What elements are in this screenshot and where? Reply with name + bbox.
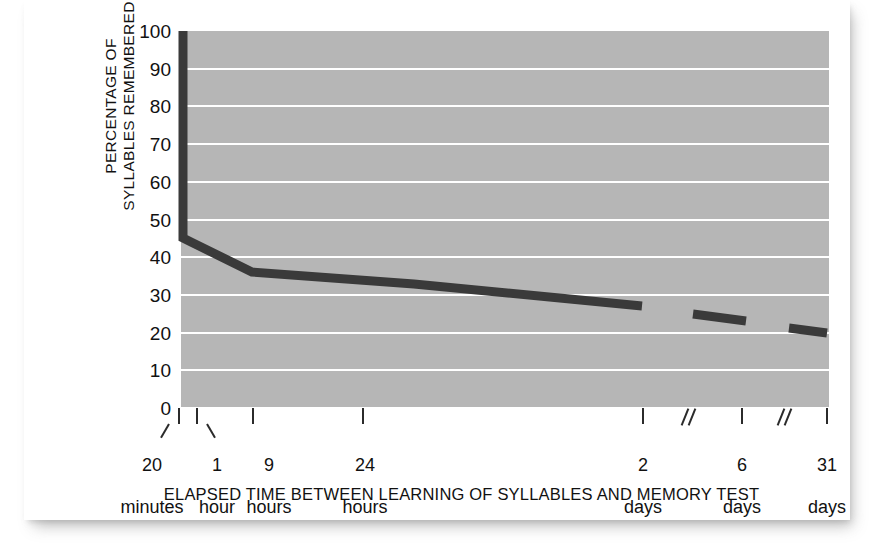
data-series-line <box>181 31 829 408</box>
x-tick-1-hour <box>196 408 198 424</box>
series-segment-2 <box>693 314 746 321</box>
y-tick-label-10: 10 <box>125 361 171 380</box>
series-segment-main <box>183 31 642 306</box>
x-label-24-hours-value: 24 <box>355 455 375 475</box>
x-tick-6-days <box>741 408 743 424</box>
x-label-9-hours: 9 hours <box>224 434 314 518</box>
x-tick-2-days <box>642 408 644 424</box>
plot-area <box>181 31 829 408</box>
y-tick-label-20: 20 <box>125 324 171 343</box>
x-label-24-hours: 24 hours <box>320 434 410 518</box>
x-tick-31-days <box>826 408 828 424</box>
x-tick-24-hours <box>362 408 364 424</box>
series-segment-3 <box>789 328 827 333</box>
x-label-2-days-value: 2 <box>638 455 648 475</box>
forgetting-curve-figure: 1009080706050403020100 PERCENTAGE OFSYLL… <box>0 0 875 554</box>
x-tick-20-minutes <box>178 408 180 424</box>
x-label-31-days: 31 days <box>782 434 872 518</box>
y-tick-label-30: 30 <box>125 286 171 305</box>
y-tick-label-40: 40 <box>125 248 171 267</box>
x-label-20-minutes-value: 20 <box>142 455 162 475</box>
axis-break-icon-1 <box>681 408 697 426</box>
x-axis: 20 minutes 1 hour 9 hours 24 hours 2 day… <box>24 408 875 488</box>
axis-break-icon-2 <box>777 408 793 426</box>
x-label-6-days-value: 6 <box>737 455 747 475</box>
x-label-31-days-value: 31 <box>817 455 837 475</box>
x-axis-title: ELAPSED TIME BETWEEN LEARNING OF SYLLABL… <box>24 485 875 504</box>
y-axis-title: PERCENTAGE OFSYLLABLES REMEMBERED <box>100 0 140 236</box>
x-label-9-hours-value: 9 <box>264 455 274 475</box>
x-tick-9-hours <box>252 408 254 424</box>
figure-card: 1009080706050403020100 PERCENTAGE OFSYLL… <box>24 0 850 520</box>
y-axis-title-line-1: PERCENTAGE OF <box>102 38 119 173</box>
y-axis-title-line-2: SYLLABLES REMEMBERED <box>120 1 137 210</box>
x-label-6-days: 6 days <box>697 434 787 518</box>
x-label-2-days: 2 days <box>598 434 688 518</box>
x-label-1-hour-value: 1 <box>212 455 222 475</box>
